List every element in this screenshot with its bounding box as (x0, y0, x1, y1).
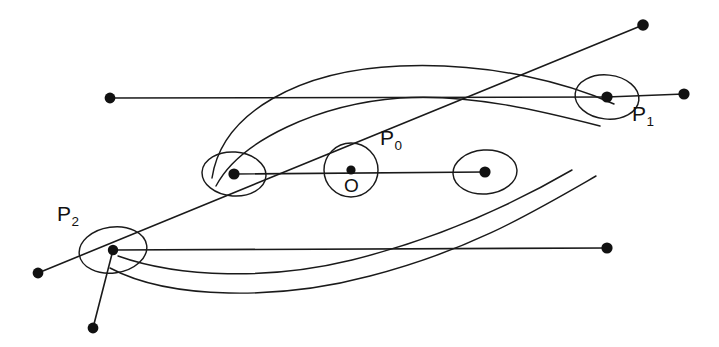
endpoint-lower-right (601, 242, 612, 253)
figure-canvas: P0 P1 P2 O (0, 0, 719, 347)
node-origin (346, 165, 355, 174)
outer-upper-curve (212, 66, 614, 178)
edge-upper-left-to-p1 (110, 97, 607, 98)
label-p2-base: P (57, 202, 71, 225)
node-right-middle (479, 166, 490, 177)
label-p1-subscript: 1 (647, 114, 655, 129)
edge-p1-to-right (607, 94, 684, 97)
label-origin: O (344, 176, 359, 195)
edge-axis-left-to-right (234, 172, 485, 174)
endpoint-top-right (637, 19, 649, 31)
node-left-middle (228, 168, 239, 179)
label-p2-subscript: 2 (72, 214, 80, 229)
edge-p2-to-lower-right (113, 248, 607, 250)
label-p1-base: P (632, 102, 646, 125)
label-p0-base: P (380, 126, 394, 149)
label-p0-subscript: 0 (395, 138, 403, 153)
endpoint-group (33, 19, 690, 333)
curve-group (110, 66, 614, 294)
endpoint-right (678, 88, 689, 99)
endpoint-bottom (88, 323, 99, 334)
edge-p2-to-bottom (93, 250, 113, 328)
diagram-svg (0, 0, 719, 347)
label-p0: P0 (380, 127, 402, 148)
edge-left-to-top-right (38, 25, 643, 273)
label-p2: P2 (57, 203, 79, 224)
endpoint-upper-left (105, 93, 116, 104)
node-p2 (108, 245, 118, 255)
node-p1 (601, 91, 612, 102)
endpoint-left (33, 268, 44, 279)
edge-group (38, 25, 684, 328)
label-p1: P1 (632, 103, 654, 124)
